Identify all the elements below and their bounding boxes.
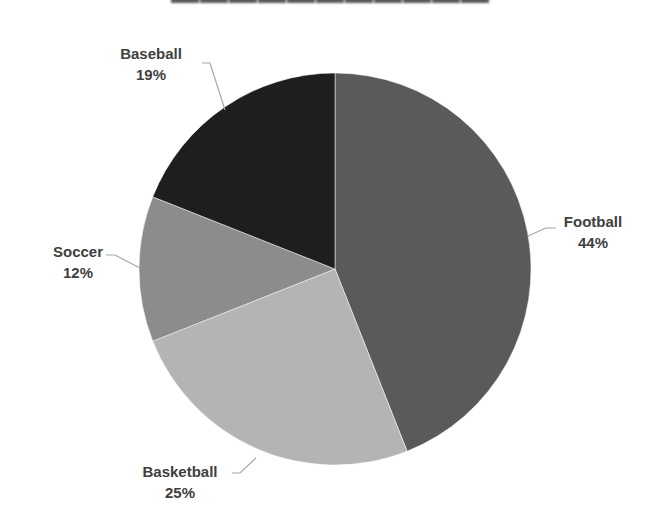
label-name: Baseball [96, 43, 206, 64]
data-label-football: Football 44% [548, 211, 638, 253]
label-percent: 19% [96, 64, 206, 85]
data-label-soccer: Soccer 12% [38, 241, 118, 283]
pie-slices [139, 73, 531, 465]
label-name: Football [548, 211, 638, 232]
data-label-baseball: Baseball 19% [96, 43, 206, 85]
label-percent: 44% [548, 232, 638, 253]
label-percent: 12% [38, 262, 118, 283]
label-name: Basketball [120, 461, 240, 482]
label-name: Soccer [38, 241, 118, 262]
label-percent: 25% [120, 482, 240, 503]
data-label-basketball: Basketball 25% [120, 461, 240, 503]
